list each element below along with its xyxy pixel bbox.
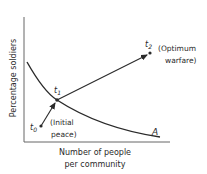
t0-note-line1: (Initial: [50, 118, 74, 127]
x-axis-label-line2: per community: [65, 160, 126, 169]
curve-a: [27, 62, 160, 137]
y-axis-label: Percentage soldiers: [9, 39, 18, 118]
population-warfare-diagram: A t0 (Initial peace) t1 t2 (Optimum warf…: [0, 0, 207, 174]
t2-label: t2: [145, 40, 152, 50]
t1-label: t1: [54, 86, 61, 96]
arrow-t1-t2: [57, 55, 147, 100]
curve-a-label: A: [151, 127, 158, 137]
t2-note-line1: (Optimum: [158, 44, 196, 53]
x-axis-label-line1: Number of people: [59, 148, 131, 157]
t0-note-line2: peace): [51, 130, 77, 139]
t2-note-line2: warfare): [165, 56, 197, 65]
point-t1: [55, 98, 59, 102]
point-t0: [39, 124, 42, 127]
point-t2: [148, 51, 151, 54]
t0-label: t0: [30, 123, 37, 133]
